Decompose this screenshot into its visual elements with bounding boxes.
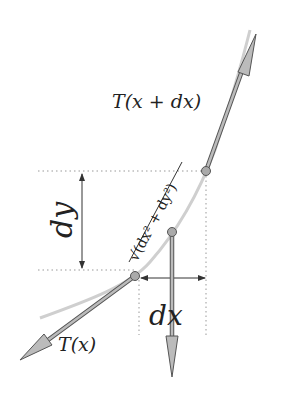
diagram-svg: T(x + dx) T(x) dx dy √(dx² + dy²) xyxy=(0,0,281,399)
lower-tension-label: T(x) xyxy=(58,333,96,355)
upper-tension-label: T(x + dx) xyxy=(112,90,201,112)
dy-label: dy xyxy=(44,201,79,238)
rope-curve xyxy=(40,30,250,318)
dx-label: dx xyxy=(149,299,183,332)
catenary-element-diagram: T(x + dx) T(x) dx dy √(dx² + dy²) xyxy=(0,0,281,399)
center-node xyxy=(168,228,177,237)
upper-node xyxy=(202,167,211,176)
lower-node xyxy=(131,272,140,281)
upper-tension-arrow xyxy=(206,34,256,171)
